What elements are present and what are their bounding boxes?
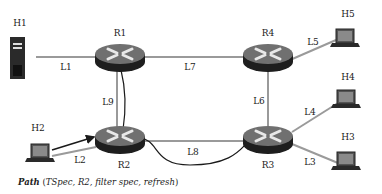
link-label-l6: L6 — [253, 96, 265, 106]
link-label-l2: L2 — [74, 155, 86, 165]
node-label-r1: R1 — [114, 28, 127, 38]
link-label-l4: L4 — [304, 107, 316, 117]
laptop-icon-h4 — [331, 90, 361, 108]
node-label-h3: H3 — [341, 132, 355, 142]
laptop-icon-h2 — [25, 144, 55, 162]
router-icon-r1 — [95, 44, 145, 72]
link-label-l5: L5 — [307, 37, 319, 47]
link-label-l9: L9 — [102, 97, 114, 107]
node-label-h1: H1 — [13, 18, 27, 28]
node-label-h5: H5 — [341, 9, 355, 19]
network-diagram: H1 R1 R4 H5 H4 H3 H2 R2 R3 L1 L7 L5 L6 L… — [0, 0, 382, 194]
router-icon-r2 — [95, 126, 145, 154]
path-r2-r1 — [121, 70, 125, 130]
caption-args: TSpec, R2, filter spec, refresh — [46, 177, 175, 187]
link-label-l3: L3 — [304, 157, 316, 167]
server-icon — [10, 37, 25, 79]
caption-close: ) — [175, 177, 178, 187]
link-label-l8: L8 — [187, 147, 199, 157]
router-icon-r3 — [243, 126, 293, 154]
node-label-r3: R3 — [262, 160, 275, 170]
figure-caption: Path (TSpec, R2, filter spec, refresh) — [18, 177, 178, 187]
node-label-r2: R2 — [118, 160, 131, 170]
node-label-h2: H2 — [31, 123, 45, 133]
link-label-l7: L7 — [184, 62, 196, 72]
laptop-icon-h5 — [330, 29, 360, 47]
router-icon-r4 — [243, 44, 293, 72]
link-label-l1: L1 — [60, 62, 72, 72]
caption-keyword: Path — [18, 177, 40, 187]
node-label-r4: R4 — [262, 28, 275, 38]
node-label-h4: H4 — [341, 72, 355, 82]
